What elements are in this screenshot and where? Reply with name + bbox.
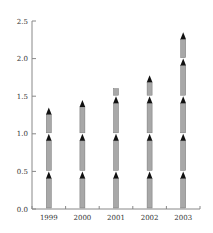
- arrow-tip-icon: [180, 59, 186, 66]
- x-tick-label: 2002: [141, 214, 159, 222]
- x-tick-label: 1999: [40, 214, 58, 222]
- pictograph-bar-chart: 0.00.51.01.52.02.5 19992000200120022003: [0, 0, 213, 233]
- arrow-tip-icon: [180, 171, 186, 178]
- y-tick-label: 0.0: [17, 206, 28, 214]
- bar-1999: [46, 107, 52, 208]
- arrow-tip-icon: [80, 134, 86, 141]
- arrow-shaft: [46, 178, 51, 208]
- arrow-tip-icon: [46, 134, 52, 141]
- arrow-shaft: [181, 178, 186, 208]
- arrow-tip-icon: [147, 96, 153, 103]
- arrow-shaft: [181, 141, 186, 171]
- arrow-shaft: [147, 82, 152, 95]
- arrow-tip-icon: [113, 96, 119, 103]
- arrow-shaft: [46, 141, 51, 171]
- y-tick-label: 2.0: [17, 55, 28, 63]
- bar-2001: [113, 89, 119, 208]
- y-tick-label: 1.0: [17, 130, 28, 138]
- arrow-shaft: [181, 39, 186, 57]
- x-tick-label: 2000: [73, 214, 91, 222]
- y-tick-label: 0.5: [17, 168, 28, 176]
- arrow-shaft: [114, 103, 119, 133]
- arrow-tip-icon: [80, 171, 86, 178]
- x-axis: 19992000200120022003: [32, 206, 200, 222]
- arrow-tip-icon: [80, 100, 86, 107]
- arrow-shaft: [114, 178, 119, 208]
- arrow-tip-icon: [113, 171, 119, 178]
- arrow-tip-icon: [180, 134, 186, 141]
- arrow-shaft: [181, 103, 186, 133]
- arrow-shaft: [114, 141, 119, 171]
- arrow-tip-icon: [180, 96, 186, 103]
- arrow-shaft: [80, 141, 85, 171]
- arrow-stub: [114, 89, 119, 96]
- arrow-tip-icon: [46, 171, 52, 178]
- arrow-tip-icon: [180, 32, 186, 39]
- arrow-shaft: [80, 178, 85, 208]
- y-axis: 0.00.51.01.52.02.5: [17, 18, 36, 214]
- bars: [46, 32, 186, 208]
- arrow-shaft: [46, 114, 51, 132]
- y-tick-label: 1.5: [17, 93, 28, 101]
- arrow-tip-icon: [113, 134, 119, 141]
- x-tick-label: 2001: [107, 214, 125, 222]
- arrow-shaft: [181, 66, 186, 96]
- arrow-tip-icon: [46, 107, 52, 114]
- arrow-shaft: [147, 103, 152, 133]
- x-tick-label: 2003: [174, 214, 192, 222]
- arrow-shaft: [147, 178, 152, 208]
- y-tick-label: 2.5: [17, 18, 28, 26]
- bar-2000: [80, 100, 86, 208]
- arrow-tip-icon: [147, 171, 153, 178]
- arrow-shaft: [147, 141, 152, 171]
- arrow-tip-icon: [147, 134, 153, 141]
- arrow-tip-icon: [147, 75, 153, 82]
- bar-2003: [180, 32, 186, 208]
- bar-2002: [147, 75, 153, 208]
- arrow-shaft: [80, 107, 85, 133]
